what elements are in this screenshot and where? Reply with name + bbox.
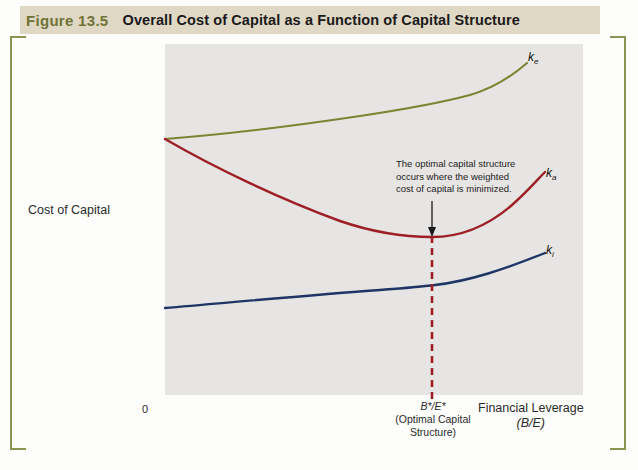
frame-corner-top-right <box>610 36 626 38</box>
frame-corner-bottom-right <box>610 448 626 450</box>
figure-title-banner: Figure 13.5 Overall Cost of Capital as a… <box>20 6 600 34</box>
optimal-structure-tick-label: B*/E* (Optimal Capital Structure) <box>362 400 504 439</box>
optimal-tick-value: B*/E* <box>362 400 504 413</box>
curve-label-ke: ke <box>528 50 538 66</box>
optimal-tick-sub-line1: (Optimal Capital <box>362 413 504 426</box>
chart-annotation: The optimal capital structure occurs whe… <box>396 158 548 196</box>
frame-corner-bottom-left <box>10 448 26 450</box>
y-axis-label: Cost of Capital <box>28 203 110 217</box>
figure-container: Figure 13.5 Overall Cost of Capital as a… <box>0 0 638 470</box>
curve-label-ki: ki <box>546 243 554 259</box>
figure-number: Figure 13.5 <box>26 12 109 29</box>
frame-left-rule <box>10 36 12 450</box>
frame-right-rule <box>624 36 626 450</box>
curve-label-ka-sub: a <box>552 173 556 182</box>
curve-label-ki-sub: i <box>552 250 554 259</box>
curve-label-ka: ka <box>546 166 556 182</box>
curve-label-ke-sub: e <box>534 57 538 66</box>
annotation-line-2: occurs where the weighted <box>396 171 548 184</box>
annotation-line-1: The optimal capital structure <box>396 158 548 171</box>
annotation-line-3: cost of capital is minimized. <box>396 183 548 196</box>
optimal-tick-sub-line2: Structure) <box>362 426 504 439</box>
origin-tick-label: 0 <box>142 403 148 415</box>
figure-title: Overall Cost of Capital as a Function of… <box>123 12 520 28</box>
frame-corner-top-left <box>10 36 26 38</box>
plot-background <box>165 44 583 395</box>
